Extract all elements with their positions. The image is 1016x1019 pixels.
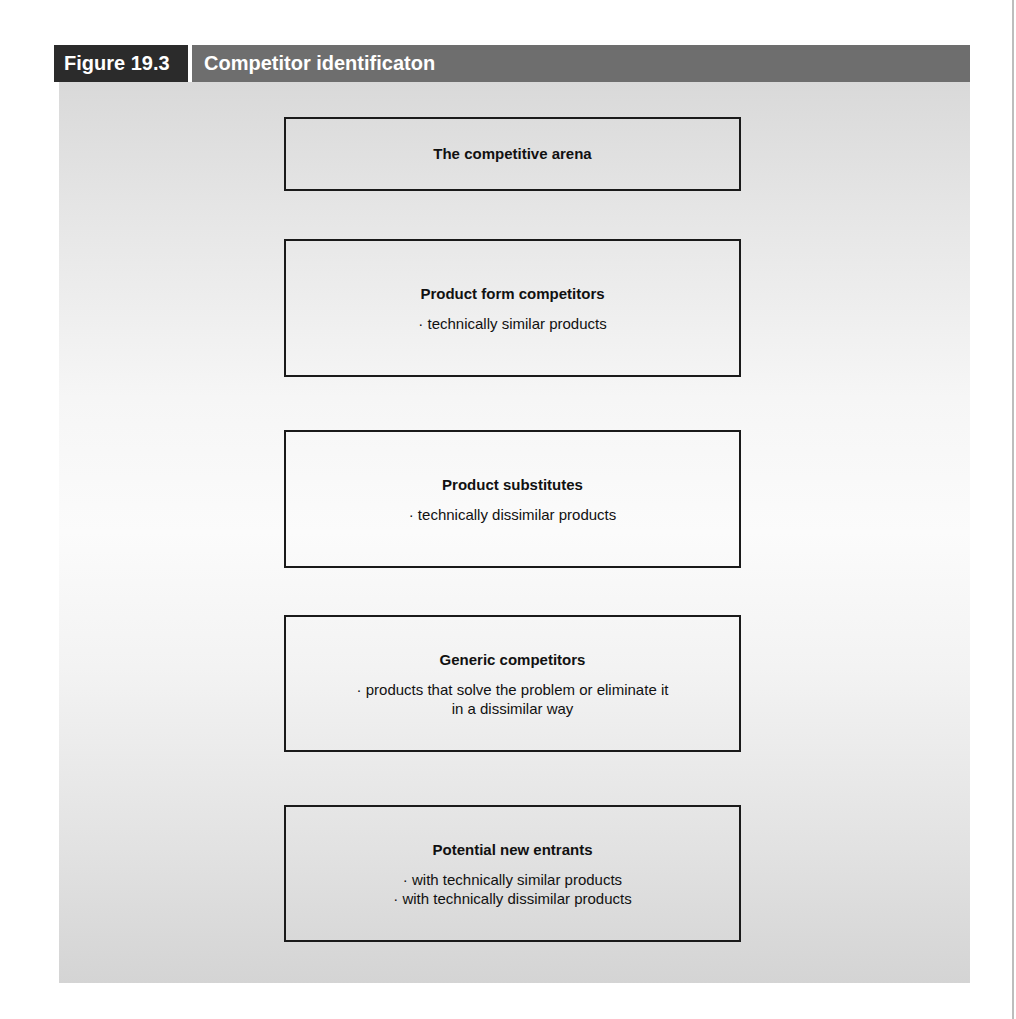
box-product-form-competitors: Product form competitors · technically s… xyxy=(284,239,741,377)
figure-number: Figure 19.3 xyxy=(54,45,188,82)
box-item: · with technically dissimilar products xyxy=(393,889,631,908)
box-item: in a dissimilar way xyxy=(357,699,669,718)
box-product-substitutes: Product substitutes · technically dissim… xyxy=(284,430,741,568)
box-title: Product form competitors xyxy=(420,284,604,304)
box-items: · technically similar products xyxy=(418,314,606,333)
box-items: · technically dissimilar products xyxy=(409,505,617,524)
box-item: · technically similar products xyxy=(418,314,606,333)
box-items: · products that solve the problem or eli… xyxy=(357,680,669,718)
box-generic-competitors: Generic competitors · products that solv… xyxy=(284,615,741,752)
box-item: · with technically similar products xyxy=(393,870,631,889)
box-title: Generic competitors xyxy=(440,650,586,670)
figure-panel: The competitive arena Product form compe… xyxy=(59,82,970,983)
figure-title: Competitor identificaton xyxy=(192,45,970,82)
box-item: · technically dissimilar products xyxy=(409,505,617,524)
box-potential-new-entrants: Potential new entrants · with technicall… xyxy=(284,805,741,942)
box-title: Product substitutes xyxy=(442,475,583,495)
box-item: · products that solve the problem or eli… xyxy=(357,680,669,699)
figure-header: Figure 19.3 Competitor identificaton xyxy=(54,45,970,82)
box-title: Potential new entrants xyxy=(432,840,592,860)
box-items: · with technically similar products · wi… xyxy=(393,870,631,908)
box-competitive-arena: The competitive arena xyxy=(284,117,741,191)
box-title: The competitive arena xyxy=(433,144,591,164)
page-margin-rule xyxy=(1012,0,1014,1019)
